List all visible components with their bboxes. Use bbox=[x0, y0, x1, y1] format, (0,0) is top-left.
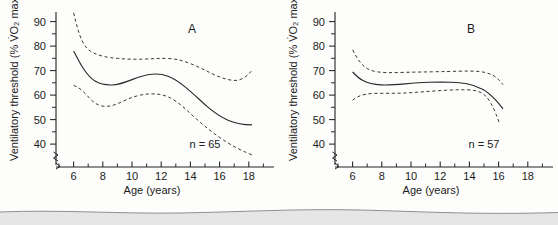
panel-b-xtick-6: 6 bbox=[350, 170, 356, 182]
panel-a-xtick-8: 8 bbox=[100, 170, 106, 182]
scanned-page-edge bbox=[0, 203, 558, 225]
panel-b-y-axis: 90 80 70 60 50 40 bbox=[313, 12, 335, 165]
panel-b-ytick-50: 50 bbox=[313, 114, 325, 126]
panel-a-ytick-70: 70 bbox=[34, 65, 46, 77]
panel-a-x-axis-title: Age (years) bbox=[124, 184, 181, 196]
panel-a-xtick-16: 16 bbox=[213, 170, 225, 182]
panel-b-xtick-14: 14 bbox=[463, 170, 475, 182]
panel-a-ytick-90: 90 bbox=[34, 16, 46, 28]
panel-a-letter: A bbox=[188, 22, 196, 36]
panel-b-upper-ci-curve bbox=[353, 50, 503, 85]
panel-a-xtick-6: 6 bbox=[71, 170, 77, 182]
panel-a-ytick-80: 80 bbox=[34, 40, 46, 52]
panel-b-curves bbox=[353, 50, 503, 125]
panel-b-xtick-16: 16 bbox=[492, 170, 504, 182]
panel-b-sample-size: n = 57 bbox=[469, 138, 500, 150]
panel-b-xtick-10: 10 bbox=[405, 170, 417, 182]
panel-a-curves bbox=[74, 13, 253, 155]
panel-b-ytick-60: 60 bbox=[313, 89, 325, 101]
panel-a-xtick-18: 18 bbox=[243, 170, 255, 182]
panel-a-plot: Ventilatory threshold (% V̇O₂ max) 90 80… bbox=[0, 0, 279, 205]
chart-panel-b: Ventilatory threshold (% V̇O₂ max) 90 80… bbox=[279, 0, 558, 205]
panel-a-y-axis-title: Ventilatory threshold (% V̇O₂ max) bbox=[8, 0, 20, 161]
panel-a-sample-size: n = 65 bbox=[190, 138, 221, 150]
figure-container: Ventilatory threshold (% V̇O₂ max) 90 80… bbox=[0, 0, 558, 225]
panel-a-xtick-10: 10 bbox=[126, 170, 138, 182]
panel-b-ytick-40: 40 bbox=[313, 138, 325, 150]
panel-b-plot: Ventilatory threshold (% V̇O₂ max) 90 80… bbox=[279, 0, 558, 205]
panel-b-xtick-12: 12 bbox=[434, 170, 446, 182]
panel-a-upper-ci-curve bbox=[74, 13, 252, 81]
panel-b-xtick-18: 18 bbox=[522, 170, 534, 182]
panel-b-ytick-90: 90 bbox=[313, 16, 325, 28]
panel-a-xtick-14: 14 bbox=[184, 170, 196, 182]
panel-a-mean-curve bbox=[74, 51, 252, 125]
panel-b-x-axis-title: Age (years) bbox=[403, 184, 460, 196]
panel-b-ytick-80: 80 bbox=[313, 40, 325, 52]
panel-a-lower-ci-curve bbox=[74, 85, 253, 155]
panel-b-xtick-8: 8 bbox=[379, 170, 385, 182]
panel-a-xtick-12: 12 bbox=[155, 170, 167, 182]
panel-b-ytick-70: 70 bbox=[313, 65, 325, 77]
panel-a-x-axis: 6 8 10 12 14 16 18 bbox=[56, 162, 274, 183]
chart-panel-a: Ventilatory threshold (% V̇O₂ max) 90 80… bbox=[0, 0, 279, 205]
panel-b-x-axis: 6 8 10 12 14 16 18 bbox=[335, 162, 553, 183]
panel-b-lower-ci-curve bbox=[353, 90, 500, 125]
panel-b-letter: B bbox=[467, 22, 475, 36]
panel-b-y-axis-title: Ventilatory threshold (% V̇O₂ max) bbox=[287, 0, 299, 161]
panel-a-ytick-40: 40 bbox=[34, 138, 46, 150]
panel-a-y-axis: 90 80 70 60 50 40 bbox=[34, 12, 56, 165]
panel-a-ytick-50: 50 bbox=[34, 114, 46, 126]
panel-a-ytick-60: 60 bbox=[34, 89, 46, 101]
panel-b-mean-curve bbox=[353, 72, 503, 109]
